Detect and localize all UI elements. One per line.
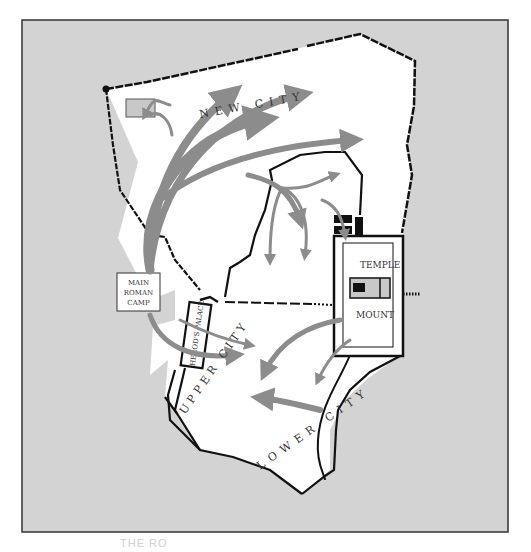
svg-text:TEMPLE: TEMPLE (360, 260, 400, 270)
figure-caption: THE RO (120, 537, 168, 549)
svg-text:ROMAN: ROMAN (124, 289, 153, 297)
svg-text:MOUNT: MOUNT (356, 310, 394, 320)
svg-text:CAMP: CAMP (127, 299, 150, 307)
svg-text:MAIN: MAIN (128, 279, 149, 287)
map-figure: HEROD'S PALACE TEMPLE MOUNT MAIN ROMAN C… (0, 0, 531, 552)
